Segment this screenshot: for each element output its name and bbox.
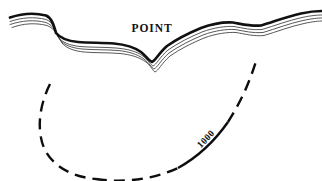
depth-contour-arc-bottom <box>96 168 178 181</box>
coastline-main-line <box>10 11 322 62</box>
coastline-diagram-svg: POINT 1000 <box>0 0 322 181</box>
point-label: POINT <box>132 22 173 34</box>
figure-canvas: POINT 1000 <box>0 0 322 181</box>
depth-contour-arc-left <box>40 84 96 179</box>
depth-contour-group <box>40 58 257 181</box>
depth-contour-arc-right <box>228 58 257 122</box>
